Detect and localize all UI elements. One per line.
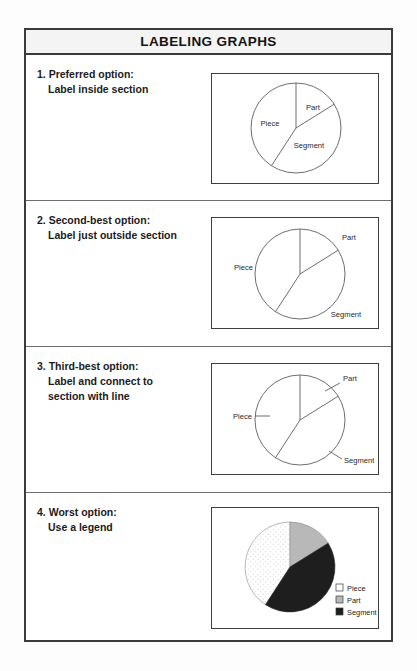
pie-divider-segment-end bbox=[276, 274, 301, 312]
figure-box-3: Part Piece Segment bbox=[211, 363, 379, 475]
option-1-line-2: Label inside section bbox=[37, 82, 209, 97]
legend-label-part: Part bbox=[347, 596, 361, 605]
pie-label-piece: Piece bbox=[233, 412, 252, 421]
option-row-3: 3. Third-best option: Label and connect … bbox=[26, 347, 391, 493]
pie-divider-segment-end bbox=[272, 128, 297, 166]
option-row-4: 4. Worst option: Use a legend bbox=[26, 493, 391, 638]
option-3-line-2: Label and connect to bbox=[37, 374, 209, 389]
pie-chart-with-legend: Piece Part Segment bbox=[212, 508, 377, 627]
legend-swatch-part bbox=[336, 596, 343, 603]
figure-box-2: Part Piece Segment bbox=[211, 217, 379, 329]
option-3-caption: 3. Third-best option: Label and connect … bbox=[37, 359, 209, 404]
option-4-line-2: Use a legend bbox=[37, 520, 209, 535]
pie-chart-labels-inside: Part Piece Segment bbox=[212, 74, 377, 182]
option-4-line-1: 4. Worst option: bbox=[37, 505, 209, 520]
leader-line-segment bbox=[329, 451, 342, 459]
legend-item-segment: Segment bbox=[336, 608, 377, 617]
option-3-line-1: 3. Third-best option: bbox=[37, 359, 209, 374]
legend-swatch-piece bbox=[336, 584, 343, 591]
legend-label-piece: Piece bbox=[347, 584, 366, 593]
option-row-1: 1. Preferred option: Label inside sectio… bbox=[26, 55, 391, 201]
option-3-line-3: section with line bbox=[37, 389, 209, 404]
figure-box-4: Piece Part Segment bbox=[211, 507, 379, 629]
pie-label-piece: Piece bbox=[234, 263, 253, 272]
pie-label-piece: Piece bbox=[261, 119, 280, 128]
figure-box-1: Part Piece Segment bbox=[211, 73, 379, 184]
legend-item-part: Part bbox=[336, 596, 361, 605]
pie-divider-segment-end bbox=[276, 420, 301, 458]
page-title: LABELING GRAPHS bbox=[140, 34, 277, 49]
legend-label-segment: Segment bbox=[347, 608, 377, 617]
legend-swatch-segment bbox=[336, 608, 343, 615]
pie-label-segment: Segment bbox=[331, 310, 362, 319]
pie-chart-labels-leader-lines: Part Piece Segment bbox=[212, 364, 377, 473]
pie-chart-labels-outside: Part Piece Segment bbox=[212, 218, 377, 327]
pie-label-segment: Segment bbox=[294, 141, 325, 150]
option-1-caption: 1. Preferred option: Label inside sectio… bbox=[37, 67, 209, 97]
option-2-line-2: Label just outside section bbox=[37, 228, 209, 243]
legend: Piece Part Segment bbox=[336, 584, 377, 617]
worksheet-page: LABELING GRAPHS 1. Preferred option: Lab… bbox=[0, 0, 417, 671]
option-row-2: 2. Second-best option: Label just outsid… bbox=[26, 201, 391, 347]
pie-label-segment: Segment bbox=[344, 456, 375, 465]
option-1-line-1: 1. Preferred option: bbox=[37, 67, 209, 82]
pie-label-part: Part bbox=[306, 103, 321, 112]
pie-label-part: Part bbox=[342, 233, 357, 242]
pie-label-part: Part bbox=[343, 374, 358, 383]
legend-item-piece: Piece bbox=[336, 584, 366, 593]
pie-divider-part-end bbox=[300, 396, 338, 420]
option-2-line-1: 2. Second-best option: bbox=[37, 213, 209, 228]
title-bar: LABELING GRAPHS bbox=[26, 30, 391, 55]
option-4-caption: 4. Worst option: Use a legend bbox=[37, 505, 209, 535]
pie-divider-part-end bbox=[300, 250, 338, 274]
option-2-caption: 2. Second-best option: Label just outsid… bbox=[37, 213, 209, 243]
labeling-graphs-frame: LABELING GRAPHS 1. Preferred option: Lab… bbox=[24, 28, 393, 642]
